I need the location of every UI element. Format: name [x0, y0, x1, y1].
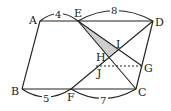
point-d-label: D: [155, 16, 164, 29]
point-c-label: C: [138, 86, 146, 99]
segment-fd: [71, 21, 153, 89]
point-a-label: A: [28, 14, 38, 27]
length-bf: 5: [43, 93, 49, 104]
point-i-label: I: [116, 38, 120, 51]
length-ed: 8: [111, 5, 117, 16]
point-b-label: B: [11, 85, 19, 98]
length-fc: 7: [100, 95, 106, 106]
point-h-label: H: [96, 51, 106, 64]
geometry-diagram: 4 8 5 7 A E D B F C G H I J: [0, 0, 171, 111]
point-g-label: G: [144, 62, 153, 75]
point-e-label: E: [74, 7, 82, 20]
segment-dc: [136, 21, 153, 89]
point-j-label: J: [96, 67, 101, 80]
length-ae: 4: [55, 9, 61, 20]
point-f-label: F: [67, 91, 75, 104]
segment-ab: [22, 21, 40, 89]
